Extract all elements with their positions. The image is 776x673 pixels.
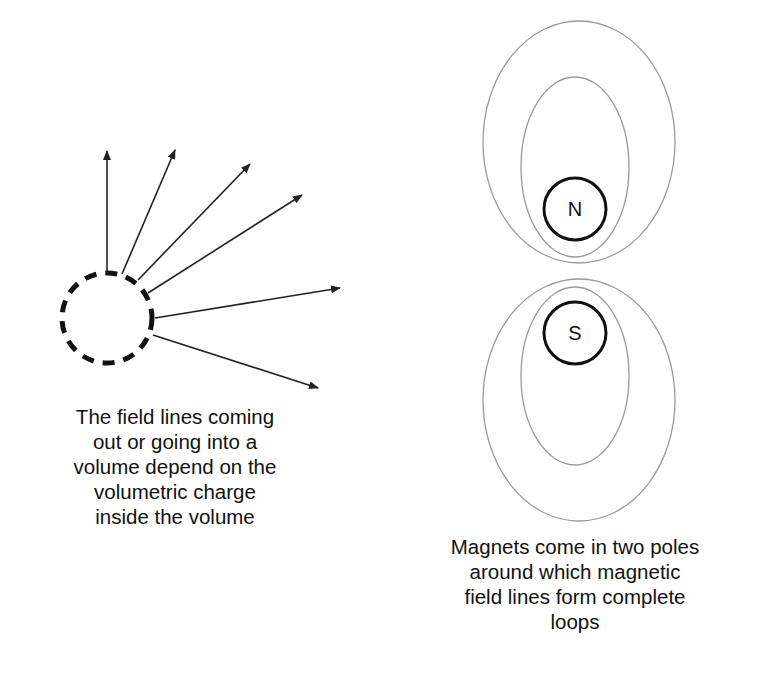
south-pole-label: S: [568, 322, 581, 344]
electric-field-diagram: [62, 150, 340, 388]
north-pole-label: N: [568, 198, 582, 220]
field-lines: [107, 150, 340, 388]
electric-field-caption: The field lines coming out or going into…: [20, 404, 330, 529]
magnetic-field-loops: [483, 21, 675, 521]
volume-boundary: [62, 273, 152, 363]
magnet-caption: Magnets come in two poles around which m…: [405, 534, 745, 634]
field-line-arrow-4: [148, 195, 302, 293]
south-pole: S: [544, 302, 606, 364]
magnet-diagram: N S: [483, 21, 675, 521]
field-line-arrow-2: [122, 150, 175, 274]
field-line-arrow-5: [155, 288, 340, 318]
field-line-arrow-3: [138, 164, 250, 280]
field-line-arrow-6: [153, 335, 318, 388]
north-pole: N: [544, 178, 606, 240]
